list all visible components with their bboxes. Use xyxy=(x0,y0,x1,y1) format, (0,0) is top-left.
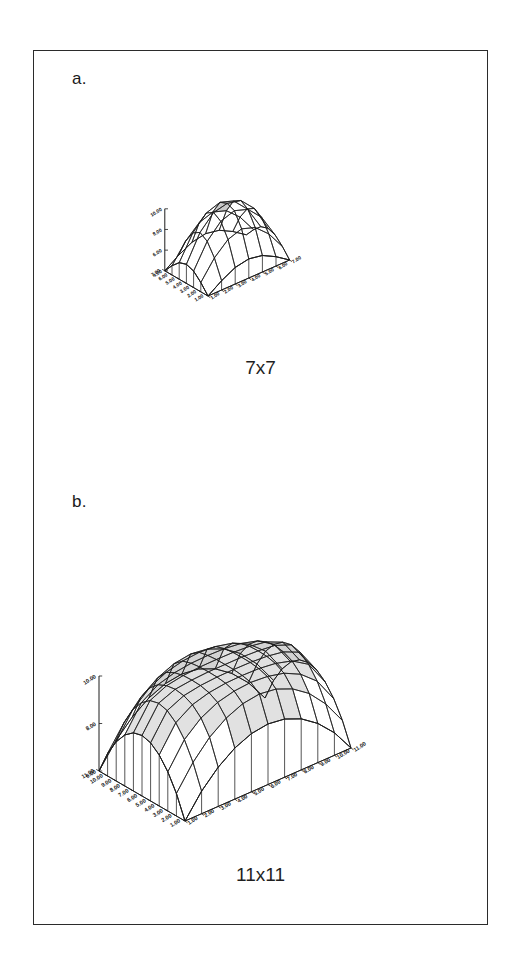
svg-text:1.00: 1.00 xyxy=(209,290,221,300)
panel-label-a: a. xyxy=(72,70,87,87)
svg-text:8.00: 8.00 xyxy=(85,721,97,732)
plot-axes: 4.006.008.0010.007.006.005.004.003.002.0… xyxy=(149,206,302,303)
svg-text:11.00: 11.00 xyxy=(352,740,367,752)
caption-11x11: 11x11 xyxy=(33,865,488,884)
svg-text:1.00: 1.00 xyxy=(169,817,181,828)
svg-text:7.00: 7.00 xyxy=(291,254,303,264)
svg-text:6.00: 6.00 xyxy=(151,247,163,257)
svg-text:10.00: 10.00 xyxy=(82,673,97,686)
surface-plot-7x7: 4.006.008.0010.007.006.005.004.003.002.0… xyxy=(150,178,380,323)
panel-label-b: b. xyxy=(72,493,87,510)
surface-plot-11x11: 6.008.0010.0011.0010.009.008.007.006.005… xyxy=(78,625,468,855)
svg-text:10.00: 10.00 xyxy=(149,206,163,218)
figure-root: a. 4.006.008.0010.007.006.005.004.003.00… xyxy=(0,0,521,967)
caption-7x7: 7x7 xyxy=(33,358,488,377)
svg-text:8.00: 8.00 xyxy=(151,227,163,237)
